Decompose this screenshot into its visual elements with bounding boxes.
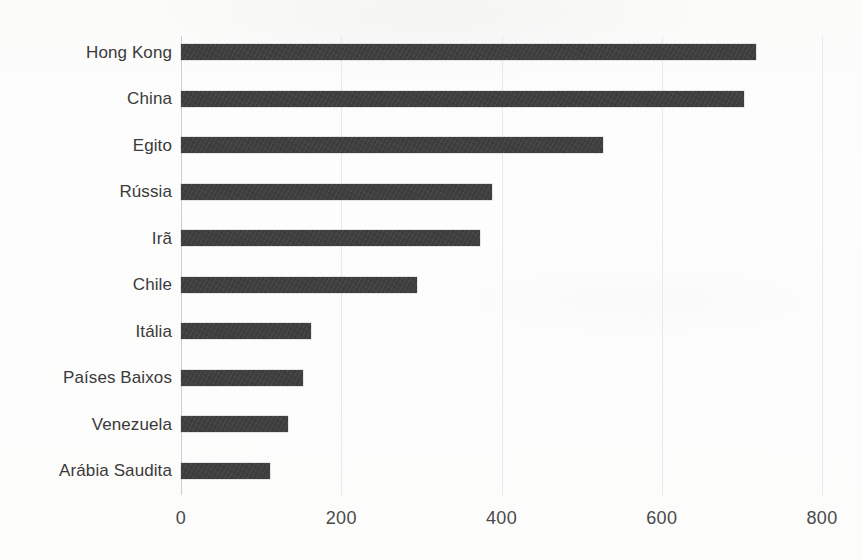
horizontal-bar-chart: Hong KongChinaEgitoRússiaIrãChileItáliaP… bbox=[0, 0, 862, 559]
bar-row bbox=[181, 44, 756, 60]
category-label: Irã bbox=[0, 230, 172, 247]
gridline-800 bbox=[822, 36, 823, 495]
bar bbox=[181, 416, 288, 432]
bar bbox=[181, 184, 492, 200]
bar-row bbox=[181, 277, 417, 293]
x-tick-label: 600 bbox=[617, 508, 707, 528]
bar bbox=[181, 44, 756, 60]
bar-row bbox=[181, 184, 492, 200]
x-tick-label: 400 bbox=[457, 508, 547, 528]
bar-row bbox=[181, 137, 603, 153]
category-label: Países Baixos bbox=[0, 369, 172, 386]
x-tick-label: 200 bbox=[296, 508, 386, 528]
category-label: China bbox=[0, 90, 172, 107]
bar-row bbox=[181, 230, 480, 246]
bar-row bbox=[181, 416, 288, 432]
category-label: Venezuela bbox=[0, 416, 172, 433]
category-label: Arábia Saudita bbox=[0, 462, 172, 479]
bar bbox=[181, 463, 270, 479]
x-tick-label: 800 bbox=[777, 508, 862, 528]
bar bbox=[181, 323, 311, 339]
bar bbox=[181, 137, 603, 153]
category-label: Rússia bbox=[0, 183, 172, 200]
bar-row bbox=[181, 463, 270, 479]
bar bbox=[181, 91, 744, 107]
x-tick-label: 0 bbox=[136, 508, 226, 528]
bar bbox=[181, 277, 417, 293]
category-label: Itália bbox=[0, 323, 172, 340]
category-label: Egito bbox=[0, 137, 172, 154]
bar bbox=[181, 370, 303, 386]
bar bbox=[181, 230, 480, 246]
category-label: Chile bbox=[0, 276, 172, 293]
bar-row bbox=[181, 323, 311, 339]
plot-area bbox=[181, 36, 822, 495]
bar-row bbox=[181, 370, 303, 386]
category-label: Hong Kong bbox=[0, 44, 172, 61]
bar-row bbox=[181, 91, 744, 107]
